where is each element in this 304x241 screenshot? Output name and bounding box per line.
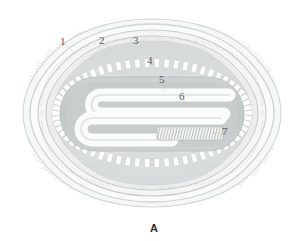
figure-caption: A (150, 222, 158, 234)
palisade-brick (164, 59, 170, 68)
virus-cross-section-svg (0, 0, 304, 241)
palisade-brick (135, 59, 141, 68)
label-5: 5 (159, 74, 165, 85)
label-7: 7 (222, 126, 228, 137)
palisade-brick (154, 58, 159, 67)
palisade-brick (164, 158, 170, 167)
label-2: 2 (99, 35, 105, 46)
palisade-brick (173, 157, 179, 167)
label-1: 1 (60, 36, 66, 47)
palisade-brick (125, 157, 131, 167)
label-6: 6 (179, 91, 185, 102)
label-4: 4 (147, 55, 153, 66)
palisade-brick (144, 158, 149, 167)
palisade-brick (173, 60, 179, 70)
palisade-brick (154, 158, 159, 167)
virus-diagram-figure: 1 2 3 4 5 6 7 A (0, 0, 304, 241)
palisade-brick (135, 158, 141, 167)
palisade-brick (125, 60, 131, 70)
label-3: 3 (133, 35, 139, 46)
